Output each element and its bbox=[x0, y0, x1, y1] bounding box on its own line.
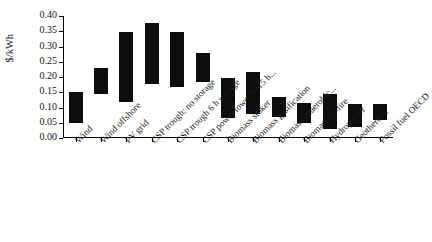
y-tick: 0.15 bbox=[63, 92, 67, 93]
y-tick-label: 0.10 bbox=[40, 101, 58, 112]
y-tick-label: 0.40 bbox=[40, 9, 58, 20]
bar bbox=[170, 32, 184, 87]
y-tick-label: 0.25 bbox=[40, 55, 58, 66]
y-tick: 0.10 bbox=[63, 108, 67, 109]
bar bbox=[69, 92, 83, 123]
y-tick-mark bbox=[59, 108, 63, 109]
y-tick-label: 0.35 bbox=[40, 24, 58, 35]
y-axis-title: $/kWh bbox=[4, 49, 15, 63]
y-tick-mark bbox=[59, 62, 63, 63]
y-tick-label: 0.00 bbox=[40, 131, 58, 142]
bar bbox=[119, 32, 133, 102]
x-axis-labels: WindWind offshorePV gridCSP trough: no s… bbox=[63, 138, 408, 242]
y-tick: 0.30 bbox=[63, 47, 67, 48]
y-tick-mark bbox=[59, 16, 63, 17]
bar bbox=[145, 23, 159, 84]
y-tick-label: 0.30 bbox=[40, 40, 58, 51]
y-tick: 0.25 bbox=[63, 62, 67, 63]
y-tick-mark bbox=[59, 77, 63, 78]
y-tick-mark bbox=[59, 47, 63, 48]
bar bbox=[94, 68, 108, 93]
y-tick-mark bbox=[59, 92, 63, 93]
y-tick: 0.35 bbox=[63, 31, 67, 32]
y-tick-label: 0.20 bbox=[40, 70, 58, 81]
y-tick-label: 0.05 bbox=[40, 116, 58, 127]
y-tick: 0.40 bbox=[63, 16, 67, 17]
y-tick-mark bbox=[59, 31, 63, 32]
y-tick-mark bbox=[59, 123, 63, 124]
y-tick: 0.05 bbox=[63, 123, 67, 124]
y-tick-label: 0.15 bbox=[40, 85, 58, 96]
bar bbox=[196, 53, 210, 81]
y-tick: 0.20 bbox=[63, 77, 67, 78]
